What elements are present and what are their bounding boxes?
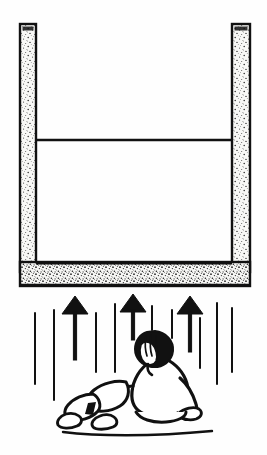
person-shoe-left (57, 413, 81, 428)
illustration-canvas: Seated person beneath concrete channel w… (0, 0, 267, 455)
airflow-arrows-group (62, 294, 203, 360)
ground-line (63, 431, 212, 435)
right-wall (232, 24, 250, 272)
person-hip-ground (136, 412, 186, 422)
airflow-arrow (120, 294, 146, 340)
airflow-arrow (62, 296, 88, 360)
illustration-svg (0, 0, 267, 455)
person-shoe-right (92, 415, 117, 430)
concrete-channel-structure (20, 24, 250, 286)
floor-slab (20, 262, 250, 286)
left-wall (20, 24, 36, 272)
